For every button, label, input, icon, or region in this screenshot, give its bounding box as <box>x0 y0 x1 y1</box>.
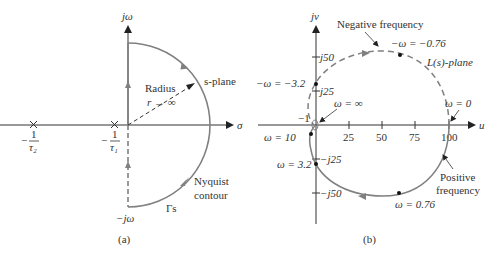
sigma-axis-label: σ <box>237 119 243 131</box>
x-tick-label-100: 100 <box>441 131 458 143</box>
u-axis-arrow-icon <box>468 121 476 129</box>
omega-0-pointer <box>451 110 459 121</box>
label-omega-3-2: ω = 3.2 <box>277 158 312 170</box>
nyquist-figure: σ jω Radius r → ∞ s-plane − <box>0 0 493 258</box>
negative-frequency-arrow-icon <box>362 50 370 57</box>
point-10 <box>309 132 313 136</box>
label-neg-omega-3-2: −ω = −3.2 <box>256 77 306 89</box>
u-axis-label: u <box>479 119 485 131</box>
positive-frequency-pointer <box>443 155 453 169</box>
l-s-plane-label: L(s)-plane <box>426 56 473 69</box>
nyquist-contour-label-2: contour <box>194 189 228 201</box>
contour-lower-up-arrow-icon <box>125 161 131 168</box>
s-plane-label: s-plane <box>204 75 236 87</box>
jomega-axis-label: jω <box>120 10 133 22</box>
figure-b-l-plane: u jv 25 50 75 100 j50 j25 −j25 −j50 <box>256 10 485 246</box>
label-neg-omega-0-76: −ω = −0.76 <box>391 37 446 49</box>
label-omega-0-76: ω = 0.76 <box>395 198 435 210</box>
point-neg-0-76 <box>398 53 402 57</box>
pole-1-sign: − <box>21 134 27 146</box>
radius-arrow-icon <box>186 83 195 90</box>
neg-jomega-label: −jω <box>116 212 134 224</box>
x-tick-label-25: 25 <box>343 131 355 143</box>
y-tick-label-neg-j50: −j50 <box>320 187 342 199</box>
point-0-76 <box>397 191 401 195</box>
v-axis-label: jv <box>309 10 319 22</box>
pole-2-denominator: τ₁ <box>110 141 118 153</box>
label-omega-infinity: ω = ∞ <box>334 97 363 109</box>
label-omega-10: ω = 10 <box>264 131 296 143</box>
figure-a-s-plane: σ jω Radius r → ∞ s-plane − <box>0 10 243 246</box>
radius-limit-label: r → ∞ <box>147 96 176 108</box>
point-3-2 <box>314 162 318 166</box>
contour-arc-arrow-top-icon <box>180 62 189 69</box>
negative-frequency-label: Negative frequency <box>337 18 424 30</box>
positive-frequency-label-2: frequency <box>436 184 480 196</box>
label-omega-0: ω = 0 <box>445 97 472 109</box>
minus-one-label: −1 <box>298 112 310 124</box>
pole-1-denominator: τ₂ <box>29 141 37 153</box>
y-tick-label-neg-j25: −j25 <box>320 153 342 165</box>
x-tick-label-75: 75 <box>409 131 421 143</box>
caption-a: (a) <box>118 233 131 246</box>
omega-infinity-pointer <box>320 109 337 122</box>
point-neg-3-2 <box>314 82 318 86</box>
v-axis-arrow-icon <box>312 25 320 33</box>
y-tick-label-j50: j50 <box>318 51 335 63</box>
pole-2-numerator: 1 <box>112 128 118 140</box>
negative-frequency-pointer <box>365 32 378 46</box>
y-tick-label-j25: j25 <box>318 85 335 97</box>
pole-2-sign: − <box>101 134 107 146</box>
x-tick-label-50: 50 <box>376 131 388 143</box>
positive-frequency-label-1: Positive <box>440 171 476 183</box>
contour-arc-arrow-bottom-icon <box>180 180 186 186</box>
contour-up-arrow-icon <box>125 81 131 88</box>
radius-label: Radius <box>145 82 176 94</box>
caption-b: (b) <box>363 233 376 246</box>
jomega-axis-arrow-icon <box>124 25 132 33</box>
gamma-s-label: Γs <box>166 202 177 214</box>
sigma-axis-arrow-icon <box>226 121 234 129</box>
pole-1-numerator: 1 <box>31 128 37 140</box>
nyquist-contour-label-1: Nyquist <box>194 175 229 187</box>
